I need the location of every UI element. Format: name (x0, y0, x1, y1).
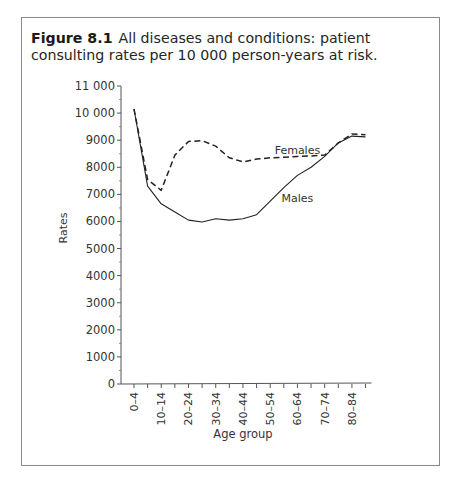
y-tick-label: 4000 (86, 269, 115, 283)
series-label-males: Males (282, 192, 314, 205)
line-chart: 010002000300040005000600070008000900010 … (0, 0, 462, 483)
y-tick-label: 8000 (86, 160, 115, 174)
x-tick-label: 0–4 (128, 392, 141, 412)
series-labels: FemalesMales (275, 144, 321, 206)
x-tick-label: 50–54 (264, 392, 277, 426)
y-tick-label: 0 (108, 377, 115, 391)
x-axis: 0–410–1420–2430–3440–4450–5460–6470–7480… (121, 383, 372, 441)
y-axis: 010002000300040005000600070008000900010 … (57, 79, 121, 391)
y-tick-label: 1000 (86, 350, 115, 364)
x-tick-label: 30–34 (210, 392, 223, 426)
y-tick-label: 10 000 (75, 106, 115, 120)
series-label-females: Females (275, 144, 321, 157)
series-line-males (134, 109, 366, 222)
y-tick-label: 3000 (86, 296, 115, 310)
x-tick-label: 80–84 (346, 392, 359, 426)
y-tick-label: 9000 (86, 133, 115, 147)
y-axis-title: Rates (57, 212, 70, 243)
y-tick-label: 11 000 (75, 79, 115, 93)
x-tick-label: 40–44 (237, 392, 250, 426)
y-tick-label: 6000 (86, 214, 115, 228)
x-tick-label: 60–64 (291, 392, 304, 426)
x-tick-label: 20–24 (182, 392, 195, 426)
y-tick-label: 2000 (86, 323, 115, 337)
y-tick-label: 7000 (86, 187, 115, 201)
x-tick-label: 10–14 (155, 392, 168, 426)
x-tick-label: 70–74 (319, 392, 332, 426)
y-tick-label: 5000 (86, 242, 115, 256)
plot-area (134, 109, 366, 222)
x-axis-title: Age group (213, 427, 272, 441)
